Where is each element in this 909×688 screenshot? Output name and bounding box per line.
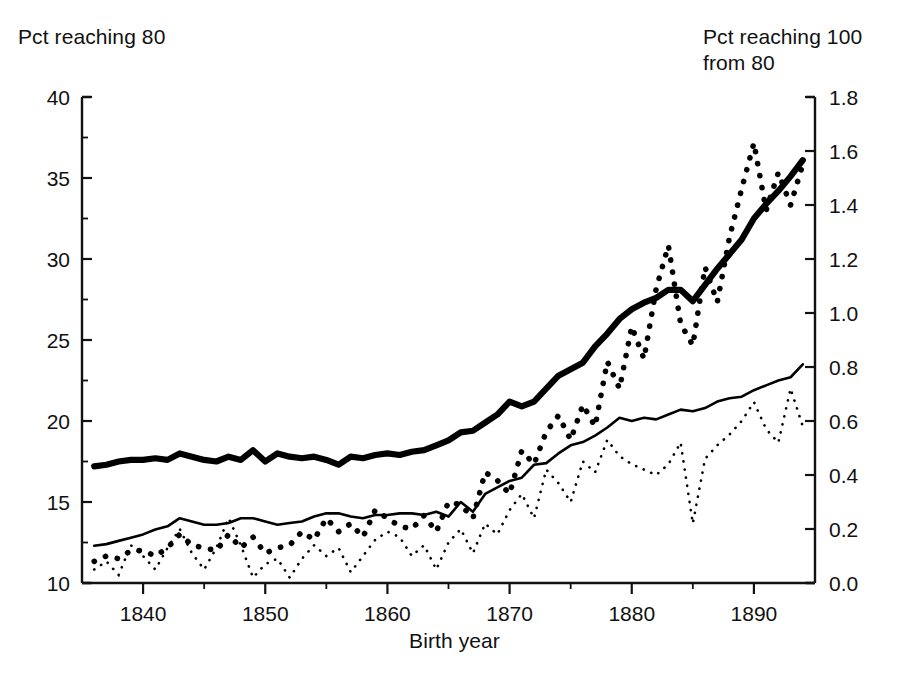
right-tick-label: 0.4 xyxy=(829,464,859,487)
right-tick-label: 1.6 xyxy=(829,140,858,163)
left-tick-label: 25 xyxy=(47,329,70,352)
x-tick-label: 1860 xyxy=(364,602,411,625)
right-tick-label: 1.8 xyxy=(829,86,858,109)
left-tick-label: 10 xyxy=(47,572,70,595)
left-tick-label: 40 xyxy=(47,86,70,109)
series-line-1 xyxy=(94,364,803,545)
left-tick-label: 30 xyxy=(47,248,70,271)
chart-figure: Pct reaching 80 Pct reaching 100 from 80… xyxy=(0,0,909,688)
left-tick-label: 35 xyxy=(47,167,70,190)
right-axis-tick-group: 0.00.20.40.60.81.01.21.41.61.8 xyxy=(805,86,859,595)
right-tick-label: 0.2 xyxy=(829,518,858,541)
series-group xyxy=(94,143,803,578)
right-tick-label: 1.2 xyxy=(829,248,858,271)
left-axis-tick-group: 10152025303540 xyxy=(47,86,92,595)
left-tick-label: 15 xyxy=(47,491,70,514)
x-tick-label: 1870 xyxy=(486,602,533,625)
right-tick-label: 1.0 xyxy=(829,302,858,325)
right-tick-label: 0.6 xyxy=(829,410,858,433)
left-tick-label: 20 xyxy=(47,410,70,433)
x-tick-label: 1850 xyxy=(242,602,289,625)
x-tick-label: 1880 xyxy=(608,602,655,625)
right-tick-label: 1.4 xyxy=(829,194,859,217)
right-tick-label: 0.0 xyxy=(829,572,858,595)
right-tick-label: 0.8 xyxy=(829,356,858,379)
series-line-2 xyxy=(94,143,803,562)
x-tick-label: 1890 xyxy=(731,602,778,625)
x-tick-label: 1840 xyxy=(120,602,167,625)
x-axis-tick-group: 184018501860187018801890 xyxy=(120,583,778,625)
series-line-3 xyxy=(94,389,803,578)
plot-canvas: 10152025303540 0.00.20.40.60.81.01.21.41… xyxy=(0,0,909,688)
axis-frame xyxy=(82,97,815,583)
